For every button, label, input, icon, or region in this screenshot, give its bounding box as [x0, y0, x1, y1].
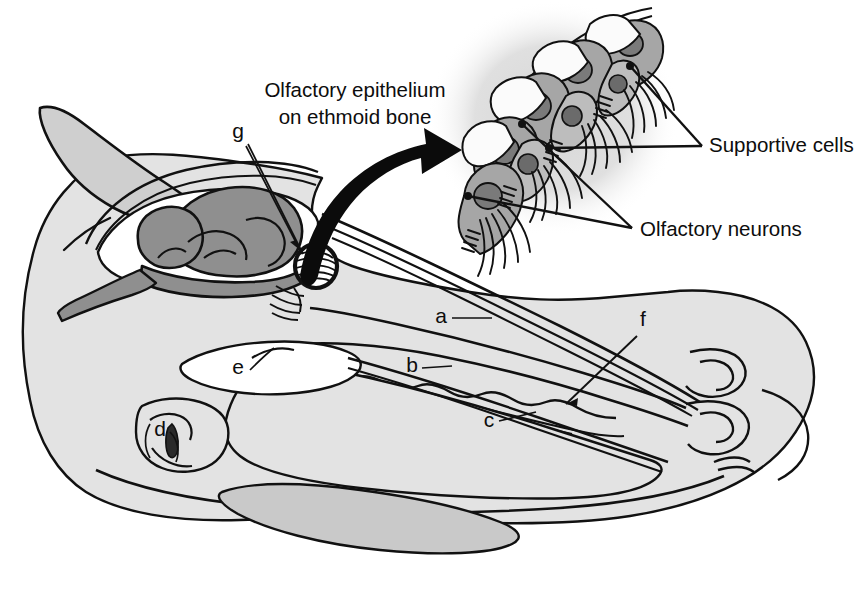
letter-label-e-text: e — [232, 355, 244, 378]
letter-label-b-text: b — [406, 353, 418, 376]
letter-label-g-text: g — [232, 119, 244, 142]
callout-olfactory-neurons: Olfactory neurons — [640, 217, 802, 240]
letter-label-f-text: f — [640, 307, 646, 330]
callout-olfactory-epithelium-line1: Olfactory epithelium — [264, 78, 445, 101]
letter-label-d-text: d — [154, 417, 166, 440]
anatomy-figure: Olfactory epithelium on ethmoid bone Sup… — [0, 0, 866, 599]
callout-supportive-cells: Supportive cells — [709, 133, 854, 156]
letter-label-a-text: a — [435, 304, 447, 327]
larynx-region — [136, 399, 228, 472]
callout-olfactory-epithelium-line2: on ethmoid bone — [279, 105, 432, 128]
letter-label-c-text: c — [484, 408, 495, 431]
olfactory-diagram-svg: Olfactory epithelium on ethmoid bone Sup… — [0, 0, 866, 599]
